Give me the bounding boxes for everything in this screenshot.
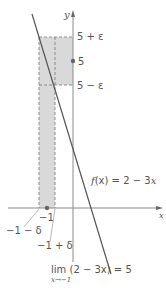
- function-var: x: [151, 175, 157, 186]
- epsilon-strip: [55, 37, 73, 85]
- x-axis-label: x: [159, 211, 164, 220]
- limit-expression: lim (2 − 3x) = 5: [51, 264, 132, 275]
- left-delta-label: −1 − δ: [6, 225, 42, 236]
- approach-value-label: −1: [39, 212, 54, 223]
- limit-point: [71, 59, 75, 63]
- x-axis-arrow-icon: [156, 206, 163, 210]
- limit-value-label: 5: [78, 56, 84, 67]
- right-delta-label: −1 + δ: [37, 240, 73, 251]
- limit-subscript: x→−1: [51, 276, 71, 284]
- lower-epsilon-label: 5 − ε: [77, 80, 104, 91]
- upper-epsilon-label: 5 + ε: [77, 31, 104, 42]
- function-label: f(x) = 2 − 3x: [90, 175, 157, 186]
- approach-point: [45, 206, 49, 210]
- y-axis-arrow-icon: [71, 10, 75, 17]
- y-axis-label: y: [63, 9, 70, 20]
- limit-diagram: y x 5 + ε 5 5 − ε −1 −1 − δ −1 + δ f(x) …: [0, 0, 166, 295]
- function-body: (x) = 2 − 3: [95, 175, 151, 186]
